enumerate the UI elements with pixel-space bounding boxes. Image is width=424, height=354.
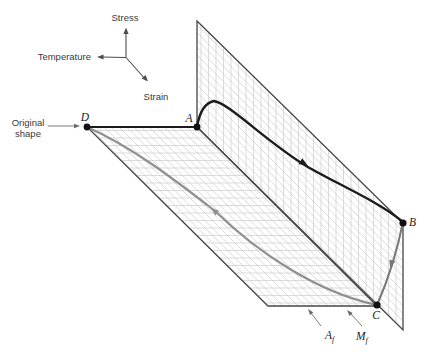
mesh-line	[0, 0, 424, 312]
arrowhead-icon	[299, 158, 308, 166]
mesh-line	[0, 61, 424, 354]
mesh-line	[0, 0, 424, 132]
point-a	[194, 124, 201, 131]
strain-axis-label: Strain	[144, 91, 169, 102]
mesh-line	[0, 0, 424, 192]
temperature-axis-label: Temperature	[38, 51, 91, 62]
point-c-label: C	[372, 309, 380, 321]
mesh-line	[350, 313, 362, 326]
mesh-line	[0, 0, 424, 50]
mesh-line	[0, 0, 424, 177]
axis-line	[100, 57, 126, 58]
mesh-line	[0, 0, 424, 207]
mesh-line	[0, 61, 424, 354]
original-shape-label-line1: Original	[12, 117, 45, 128]
loading-curve-a-to-b	[197, 101, 403, 222]
diagram-canvas: Stress Temperature Strain Original shape…	[0, 0, 424, 354]
mesh-line	[0, 76, 424, 354]
point-d	[84, 124, 91, 131]
mesh-line	[0, 121, 424, 354]
axis-triad	[97, 28, 148, 82]
mesh-line	[0, 0, 424, 87]
mesh-line	[0, 0, 424, 147]
mesh-line	[0, 0, 424, 57]
mesh-line	[0, 0, 424, 312]
mesh-line	[0, 0, 424, 192]
af-temperature-label: Af	[324, 329, 336, 344]
mesh-line	[0, 181, 424, 354]
mesh-line	[0, 0, 424, 87]
mesh-line	[0, 46, 424, 354]
mesh-line	[0, 0, 424, 177]
mesh-line	[0, 121, 424, 354]
mesh-line	[311, 313, 321, 326]
original-shape-label-line2: shape	[15, 128, 41, 139]
stress-axis-label: Stress	[112, 12, 139, 23]
mesh-line	[0, 76, 424, 354]
point-c	[373, 301, 380, 308]
shape-memory-diagram: Stress Temperature Strain Original shape…	[0, 0, 424, 354]
point-b-label: B	[409, 216, 416, 228]
mesh-line	[0, 181, 424, 354]
mesh-line	[0, 0, 424, 50]
mesh-line	[0, 0, 424, 297]
point-d-label: D	[80, 111, 90, 123]
mesh-line	[0, 0, 424, 57]
mesh-line	[0, 0, 424, 132]
mesh-line	[0, 0, 424, 297]
point-b	[399, 219, 406, 226]
arrowhead-icon	[74, 124, 80, 128]
arrowhead-icon	[97, 54, 104, 59]
arrowhead-icon	[308, 309, 313, 315]
arrowhead-icon	[123, 28, 128, 35]
mesh-line	[0, 0, 424, 147]
mesh-line	[0, 46, 424, 354]
point-a-label: A	[184, 112, 193, 124]
mf-temperature-label: Mf	[355, 330, 370, 345]
mesh-line	[0, 0, 424, 207]
axis-line	[127, 58, 147, 80]
